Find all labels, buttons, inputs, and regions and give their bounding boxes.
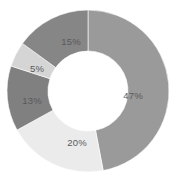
donut-chart-svg: 47%20%13%5%15% bbox=[0, 0, 176, 185]
donut-slices bbox=[7, 10, 169, 172]
donut-chart: 47%20%13%5%15% bbox=[0, 0, 176, 185]
donut-slice-label: 5% bbox=[30, 63, 44, 74]
donut-slice-label: 15% bbox=[61, 36, 81, 47]
donut-slice-label: 20% bbox=[67, 137, 87, 148]
donut-slice-label: 13% bbox=[22, 95, 42, 106]
donut-slice-label: 47% bbox=[123, 90, 143, 101]
